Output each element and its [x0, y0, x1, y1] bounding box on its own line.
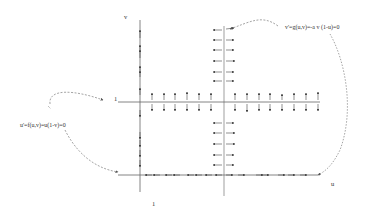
- u-axis-label: u: [331, 181, 334, 188]
- diagram-canvas: [0, 0, 372, 214]
- v-nullcline-equation: v'=g(u,v)=-a v (1-u)=0: [285, 24, 339, 30]
- v-axis-label: v: [124, 14, 127, 21]
- v-nullcline-pointer: [230, 20, 347, 175]
- u-equals-1-tick-label: 1: [152, 201, 155, 208]
- u-nullcline-equation: u'=f(u,v)=u(1-v)=0: [20, 122, 66, 128]
- u-nullcline-pointer: [48, 92, 118, 172]
- v-equals-1-tick-label: 1: [114, 96, 117, 103]
- phase-plane-diagram: v u 1 1 v'=g(u,v)=-a v (1-u)=0 u'=f(u,v)…: [0, 0, 372, 214]
